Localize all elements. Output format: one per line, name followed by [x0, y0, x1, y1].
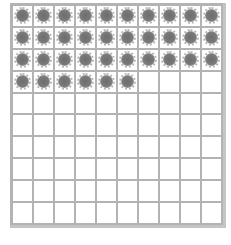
filled-cell	[76, 72, 95, 92]
empty-cell	[118, 115, 137, 135]
sun-dot-icon	[142, 31, 155, 44]
empty-cell	[34, 94, 53, 114]
sun-dot-icon	[100, 75, 113, 88]
empty-cell	[76, 94, 95, 114]
filled-cell	[97, 6, 116, 26]
filled-cell	[76, 6, 95, 26]
filled-cell	[139, 50, 158, 70]
sun-dot-icon	[142, 9, 155, 22]
empty-cell	[139, 181, 158, 201]
sun-dot-icon	[100, 31, 113, 44]
empty-cell	[202, 137, 221, 157]
filled-cell	[118, 50, 137, 70]
empty-cell	[181, 203, 200, 223]
empty-cell	[13, 181, 32, 201]
empty-cell	[76, 137, 95, 157]
empty-cell	[160, 72, 179, 92]
empty-cell	[34, 137, 53, 157]
empty-cell	[139, 159, 158, 179]
empty-cell	[181, 181, 200, 201]
hundred-grid	[10, 3, 226, 228]
empty-cell	[55, 115, 74, 135]
empty-cell	[76, 181, 95, 201]
sun-dot-icon	[184, 31, 197, 44]
sun-dot-icon	[205, 31, 218, 44]
sun-dot-icon	[58, 9, 71, 22]
empty-cell	[139, 72, 158, 92]
sun-dot-icon	[100, 53, 113, 66]
filled-cell	[34, 6, 53, 26]
empty-cell	[34, 181, 53, 201]
filled-cell	[76, 50, 95, 70]
sun-dot-icon	[142, 53, 155, 66]
empty-cell	[139, 94, 158, 114]
filled-cell	[139, 28, 158, 48]
empty-cell	[202, 181, 221, 201]
filled-cell	[55, 6, 74, 26]
sun-dot-icon	[16, 9, 29, 22]
empty-cell	[160, 203, 179, 223]
empty-cell	[97, 159, 116, 179]
empty-cell	[181, 72, 200, 92]
sun-dot-icon	[79, 53, 92, 66]
empty-cell	[13, 203, 32, 223]
sun-dot-icon	[163, 9, 176, 22]
empty-cell	[202, 203, 221, 223]
empty-cell	[118, 159, 137, 179]
filled-cell	[181, 6, 200, 26]
filled-cell	[118, 28, 137, 48]
empty-cell	[139, 203, 158, 223]
empty-cell	[55, 203, 74, 223]
sun-dot-icon	[184, 9, 197, 22]
sun-dot-icon	[79, 31, 92, 44]
empty-cell	[139, 137, 158, 157]
sun-dot-icon	[163, 53, 176, 66]
empty-cell	[13, 94, 32, 114]
empty-cell	[13, 137, 32, 157]
empty-cell	[34, 203, 53, 223]
filled-cell	[13, 72, 32, 92]
empty-cell	[118, 94, 137, 114]
sun-dot-icon	[121, 53, 134, 66]
filled-cell	[55, 28, 74, 48]
empty-cell	[118, 137, 137, 157]
filled-cell	[97, 28, 116, 48]
empty-cell	[118, 181, 137, 201]
filled-cell	[181, 28, 200, 48]
sun-dot-icon	[79, 9, 92, 22]
empty-cell	[13, 159, 32, 179]
filled-cell	[34, 72, 53, 92]
empty-cell	[13, 115, 32, 135]
sun-dot-icon	[121, 31, 134, 44]
empty-cell	[160, 159, 179, 179]
filled-cell	[202, 50, 221, 70]
filled-cell	[97, 50, 116, 70]
sun-dot-icon	[37, 75, 50, 88]
empty-cell	[55, 137, 74, 157]
filled-cell	[55, 72, 74, 92]
filled-cell	[202, 6, 221, 26]
empty-cell	[181, 159, 200, 179]
empty-cell	[160, 115, 179, 135]
sun-dot-icon	[16, 31, 29, 44]
filled-cell	[160, 28, 179, 48]
empty-cell	[97, 203, 116, 223]
empty-cell	[76, 115, 95, 135]
empty-cell	[202, 159, 221, 179]
sun-dot-icon	[163, 31, 176, 44]
sun-dot-icon	[121, 9, 134, 22]
empty-cell	[76, 203, 95, 223]
empty-cell	[202, 94, 221, 114]
sun-dot-icon	[37, 31, 50, 44]
empty-cell	[160, 137, 179, 157]
filled-cell	[13, 28, 32, 48]
sun-dot-icon	[58, 53, 71, 66]
filled-cell	[202, 28, 221, 48]
empty-cell	[97, 181, 116, 201]
sun-dot-icon	[16, 53, 29, 66]
empty-cell	[55, 159, 74, 179]
filled-cell	[13, 50, 32, 70]
sun-dot-icon	[205, 53, 218, 66]
filled-cell	[139, 6, 158, 26]
filled-cell	[76, 28, 95, 48]
